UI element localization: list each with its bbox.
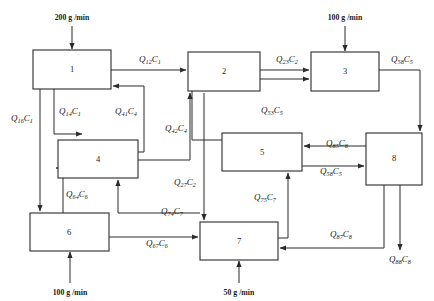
- feed-label-unit-7: 50 g /min: [224, 288, 255, 297]
- stream-q75: Q75C7: [254, 192, 277, 203]
- stream-q12: Q12C1: [139, 54, 161, 65]
- stream-q16: Q16C1: [11, 113, 33, 124]
- unit-label-1: 1: [70, 64, 74, 74]
- process-flow-diagram: 1 2 3 4 5 6 7 8 200 g /min 100 g /min 10…: [0, 0, 434, 301]
- feed-label-unit-1: 200 g /min: [55, 13, 90, 22]
- stream-q74: Q74C7: [161, 206, 184, 217]
- stream-q41: Q41C4: [115, 106, 137, 117]
- stream-q42: Q42C4: [165, 123, 187, 134]
- unit-label-7: 7: [237, 236, 241, 246]
- stream-q67: Q67C6: [146, 238, 169, 249]
- stream-q85: Q85C8: [326, 138, 349, 149]
- unit-label-2: 2: [222, 66, 226, 76]
- feed-label-unit-6: 100 g /min: [53, 288, 88, 297]
- stream-q53: Q53C5: [261, 105, 283, 116]
- feed-label-unit-3: 100 g /min: [328, 13, 363, 22]
- unit-label-6: 6: [67, 227, 71, 237]
- unit-label-5: 5: [260, 147, 264, 157]
- flowsheet-canvas: 1 2 3 4 5 6 7 8 200 g /min 100 g /min 10…: [0, 0, 434, 301]
- stream-q23: Q23C2: [276, 54, 298, 65]
- stream-q88: Q88C8: [389, 254, 412, 265]
- unit-label-8: 8: [392, 153, 396, 163]
- stream-q64: Q64C6: [66, 189, 89, 200]
- unit-label-3: 3: [343, 66, 347, 76]
- unit-boxes: [30, 50, 422, 260]
- stream-q87: Q87C8: [330, 229, 353, 240]
- stream-q58: Q58C5: [391, 54, 413, 65]
- stream-q27: Q27C2: [174, 177, 196, 188]
- stream-q58b: Q58C5: [320, 166, 342, 177]
- stream-q14: Q14C1: [59, 106, 81, 117]
